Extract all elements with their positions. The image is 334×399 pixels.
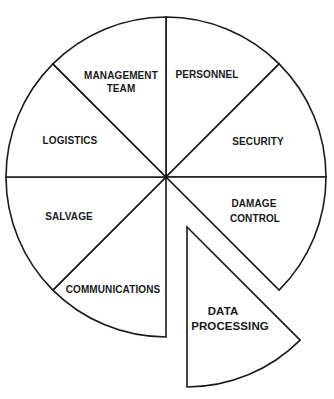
label-damage-control-line2: CONTROL <box>230 213 280 224</box>
label-data-processing-line1: DATA <box>208 305 239 317</box>
label-logistics: LOGISTICS <box>43 135 98 146</box>
label-communications: COMMUNICATIONS <box>66 284 161 295</box>
label-personnel: PERSONNEL <box>175 69 238 80</box>
label-security: SECURITY <box>232 136 284 147</box>
label-management-team-line1: MANAGEMENT <box>84 70 158 81</box>
label-management-team-line2: TEAM <box>107 83 136 94</box>
label-salvage: SALVAGE <box>45 211 93 222</box>
center-hub <box>164 175 168 179</box>
label-damage-control-line1: DAMAGE <box>231 198 276 209</box>
label-data-processing-line2: PROCESSING <box>191 320 269 332</box>
exploded-pie-diagram: MANAGEMENT TEAM PERSONNEL LOGISTICS SECU… <box>0 0 334 399</box>
